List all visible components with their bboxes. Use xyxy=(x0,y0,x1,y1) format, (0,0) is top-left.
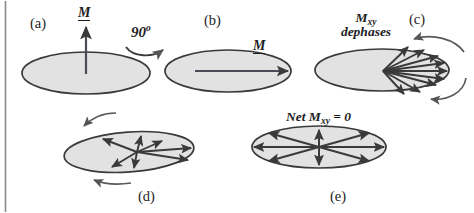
ellipse-plane-icon xyxy=(315,49,449,91)
panel-label-e: (e) xyxy=(330,189,346,204)
panel-b-group xyxy=(165,50,291,92)
vector-label-m-a: M xyxy=(78,6,90,20)
panel-label-d: (d) xyxy=(138,189,155,204)
caption-net-mxy-zero: Net Mxy = 0 xyxy=(286,110,351,124)
panel-label-a: (a) xyxy=(30,16,46,31)
ellipse-plane-icon xyxy=(63,128,195,177)
panel-label-c: (c) xyxy=(409,12,425,27)
curved-arrow-icon-rotation xyxy=(126,47,163,55)
panel-label-b: (b) xyxy=(204,13,221,28)
curved-arrow-icon-precession-top xyxy=(414,37,464,52)
caption-mxy-dephases: Mxy dephases xyxy=(330,11,402,38)
isochromat-fan-e xyxy=(254,130,384,165)
figure-container: (a) M 90o (b) M Mxy dephases (c) (d) Net… xyxy=(0,0,474,213)
diagram-canvas xyxy=(0,0,474,213)
panel-e-group xyxy=(252,126,386,168)
curved-arrow-icon-precession-top-d xyxy=(84,113,116,126)
panel-d-group xyxy=(63,113,195,184)
vector-label-m-b: M xyxy=(253,39,265,53)
panel-c-group xyxy=(315,37,466,100)
curved-arrow-icon-precession-bottom-d xyxy=(94,180,131,184)
rotation-angle-label: 90o xyxy=(131,24,151,40)
